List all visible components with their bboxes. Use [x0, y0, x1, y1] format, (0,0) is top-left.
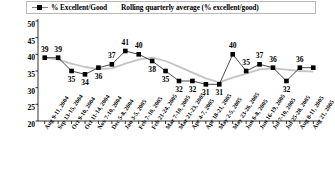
chart-legend: % Excellent/Good Rolling quarterly avera… — [26, 1, 316, 14]
legend-label-rolling-average: Rolling quarterly average (% excellent/g… — [121, 4, 259, 11]
data-point-label: 36 — [95, 73, 103, 81]
data-point-label: 41 — [121, 39, 129, 47]
data-point-label: 32 — [175, 86, 183, 94]
legend-entry-excellent-good: % Excellent/Good — [32, 4, 107, 11]
data-point-label: 32 — [189, 86, 197, 94]
square-marker-icon — [32, 4, 48, 11]
data-point-label: 35 — [242, 59, 250, 67]
data-point-label: 37 — [256, 52, 264, 60]
data-point-label: 32 — [283, 86, 291, 94]
data-point-label: 34 — [81, 79, 89, 87]
data-point-label: 38 — [148, 66, 156, 74]
data-point-label: 31 — [215, 89, 223, 97]
legend-entry-rolling-average: Rolling quarterly average (% excellent/g… — [121, 4, 259, 11]
data-point-label: 36 — [296, 56, 304, 64]
legend-label-excellent-good: % Excellent/Good — [51, 4, 107, 11]
data-point-label: 37 — [108, 52, 116, 60]
data-point-label: 39 — [54, 46, 62, 54]
data-point-label: 40 — [135, 42, 143, 50]
data-point-label: 35 — [162, 76, 170, 84]
data-point-label: 35 — [68, 76, 76, 84]
data-point-label: 40 — [229, 42, 237, 50]
data-point-label: 36 — [269, 56, 277, 64]
data-point-label: 39 — [41, 46, 49, 54]
x-axis-labels: Aug 9-11, 2004Sep 13-15, 2004Oct 9-10, 2… — [0, 128, 326, 182]
